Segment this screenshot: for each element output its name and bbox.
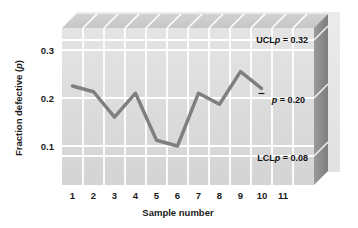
x-tick-label: 2 (91, 190, 96, 201)
y-tick-label: 0.2 (41, 93, 54, 104)
x-tick-label: 9 (238, 190, 243, 201)
ucl-label-value: 0.32 (290, 35, 308, 45)
centerline-label-equals: = (277, 95, 287, 105)
y-axis-ticks: 0.3 0.2 0.1 (41, 45, 55, 152)
x-tick-label: 10 (257, 190, 268, 201)
svg-text:Fraction defective (p): Fraction defective (p) (13, 60, 24, 156)
lcl-label-prefix: LCL (257, 153, 275, 163)
chart-svg: 0.3 0.2 0.1 Fraction defective (p) 1 2 3… (0, 0, 358, 228)
x-tick-label: 6 (175, 190, 180, 201)
panel-right-face-3d (314, 14, 328, 185)
panel-top-faces (62, 14, 328, 28)
x-tick-label: 1 (70, 190, 76, 201)
y-tick-label: 0.1 (41, 141, 55, 152)
x-axis-title: Sample number (142, 207, 214, 218)
x-tick-label: 7 (196, 190, 201, 201)
centerline-label-value: 0.20 (287, 95, 305, 105)
lcl-label: LCLp = 0.08 (257, 153, 308, 163)
x-tick-label: 11 (278, 190, 289, 201)
x-tick-label: 5 (154, 190, 160, 201)
lcl-label-value: 0.08 (290, 153, 308, 163)
y-axis-title: Fraction defective (p) (13, 60, 24, 156)
ucl-label-group: UCLp = 0.32 (256, 35, 308, 45)
ucl-label-prefix: UCL (256, 35, 275, 45)
x-axis-ticks: 1 2 3 4 5 6 7 8 9 10 11 (70, 190, 289, 201)
x-tick-label: 4 (133, 190, 139, 201)
lcl-label-equals: = (280, 153, 290, 163)
centerline-label: p = 0.20 (271, 95, 305, 105)
panel-right-face (314, 14, 328, 185)
x-tick-label: 8 (217, 190, 222, 201)
ucl-label-equals: = (280, 35, 290, 45)
y-axis-title-prefix: Fraction defective ( (13, 68, 24, 156)
y-tick-label: 0.3 (41, 45, 54, 56)
lcl-label-group: LCLp = 0.08 (257, 153, 308, 163)
control-chart: 0.3 0.2 0.1 Fraction defective (p) 1 2 3… (0, 0, 358, 228)
x-tick-label: 3 (112, 190, 117, 201)
ucl-label: UCLp = 0.32 (256, 35, 308, 45)
y-axis-title-suffix: ) (13, 60, 24, 63)
